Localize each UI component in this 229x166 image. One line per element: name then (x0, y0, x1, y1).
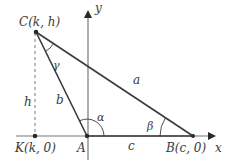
angle-beta-arc (160, 118, 166, 136)
label-point-A: A (76, 141, 86, 155)
angle-gamma-arc (46, 44, 54, 52)
label-point-K: K(k, 0) (14, 141, 56, 155)
triangle-diagram: C(k, h) y γ a b h α β c K(k, 0) A B(c, 0… (0, 0, 229, 166)
point-B (191, 134, 195, 138)
label-point-B: B(c, 0) (165, 141, 206, 155)
point-C (34, 30, 39, 35)
label-alpha: α (97, 111, 105, 124)
label-side-c: c (128, 139, 135, 153)
label-beta: β (146, 120, 153, 133)
point-K (33, 134, 38, 139)
label-y-axis: y (94, 1, 102, 15)
label-side-a: a (133, 73, 140, 87)
label-point-C: C(k, h) (19, 15, 60, 29)
point-A (85, 134, 89, 138)
side-a (36, 32, 193, 136)
label-gamma: γ (53, 59, 60, 72)
label-side-b: b (56, 93, 64, 107)
label-x-axis: x (215, 141, 222, 155)
label-height-h: h (24, 95, 32, 109)
